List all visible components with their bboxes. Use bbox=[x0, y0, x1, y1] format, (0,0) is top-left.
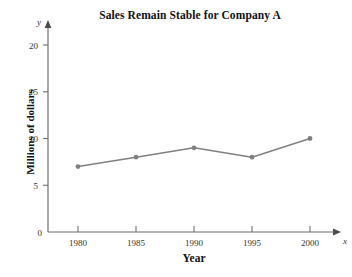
line-chart-figure: Sales Remain Stable for Company A 20 15 … bbox=[0, 0, 352, 277]
series-line-company-a bbox=[78, 139, 310, 167]
data-point-2000 bbox=[308, 136, 313, 141]
data-point-1985 bbox=[134, 155, 139, 160]
data-point-1990 bbox=[192, 145, 197, 150]
series-markers bbox=[76, 136, 313, 169]
y-tick-label-20: 20 bbox=[29, 41, 39, 51]
data-point-1980 bbox=[76, 164, 81, 169]
x-axis-arrow-icon bbox=[333, 229, 341, 236]
plot-area: 20 15 10 5 0 y 1980 1985 1990 1995 2000 … bbox=[0, 0, 352, 277]
x-tick-label-1990: 1990 bbox=[185, 238, 204, 248]
y-axis-variable-label: y bbox=[36, 17, 41, 27]
y-axis-arrow-icon bbox=[45, 20, 52, 28]
y-tick-label-0: 0 bbox=[38, 228, 43, 238]
x-tick-label-1980: 1980 bbox=[69, 238, 88, 248]
x-tick-label-1995: 1995 bbox=[243, 238, 262, 248]
x-axis-title: Year bbox=[48, 252, 340, 264]
x-tick-label-2000: 2000 bbox=[301, 238, 320, 248]
x-tick-label-1985: 1985 bbox=[127, 238, 146, 248]
x-axis-variable-label: x bbox=[342, 236, 347, 246]
data-point-1995 bbox=[250, 155, 255, 160]
y-axis-title: Millions of dollars bbox=[24, 57, 36, 207]
